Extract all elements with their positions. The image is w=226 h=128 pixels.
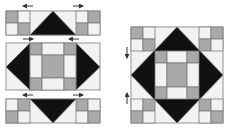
bottom-strip [6,99,100,123]
quilt-diagram [0,0,226,128]
center-row [6,43,100,90]
completed-block [131,27,223,123]
top-strip [6,11,100,35]
